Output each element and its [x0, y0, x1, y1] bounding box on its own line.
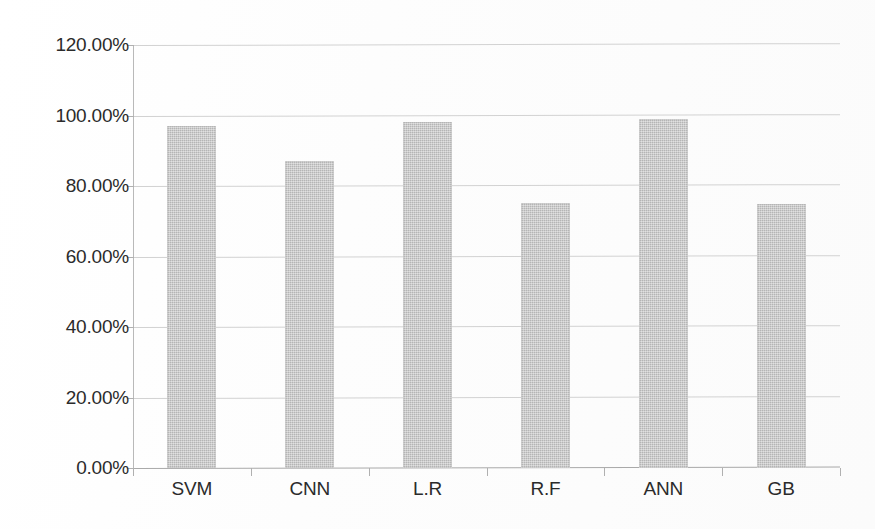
bar-svm[interactable] — [167, 126, 216, 468]
y-axis-tick-label: 40.00% — [66, 316, 129, 338]
x-axis-tick-label: ANN — [643, 478, 683, 500]
x-axis-tick — [251, 468, 252, 476]
y-axis-tick-label: 80.00% — [66, 175, 129, 197]
x-axis-tick — [722, 468, 723, 476]
gridline-y — [133, 114, 840, 117]
x-axis-tick — [840, 468, 841, 476]
x-axis-tick — [369, 468, 370, 476]
x-axis-tick-label: SVM — [172, 478, 213, 500]
x-axis-tick-label: CNN — [289, 478, 330, 500]
plot-area: 0.00%20.00%40.00%60.00%80.00%100.00%120.… — [0, 0, 875, 529]
gridline-y — [133, 184, 840, 187]
gridline-y — [133, 43, 840, 46]
gridline-y — [133, 325, 840, 328]
x-axis-tick — [604, 468, 605, 476]
y-axis-tick-label: 100.00% — [55, 105, 129, 127]
x-axis-tick-label: L.R — [413, 478, 442, 500]
bar-cnn[interactable] — [285, 161, 334, 468]
x-axis-tick — [133, 468, 134, 476]
bar-ann[interactable] — [639, 119, 688, 468]
y-axis-tick-label: 0.00% — [76, 457, 129, 479]
y-axis-tick-label: 20.00% — [66, 387, 129, 409]
gridline-y — [133, 396, 840, 399]
x-axis-tick-label: R.F — [530, 478, 560, 500]
y-axis-tick-label: 60.00% — [66, 246, 129, 268]
x-axis-tick-label: GB — [768, 478, 795, 500]
gridline-y — [133, 255, 840, 258]
x-axis-tick — [487, 468, 488, 476]
y-axis-tick-label: 120.00% — [55, 34, 129, 56]
bar-l-r[interactable] — [403, 122, 452, 468]
bar-chart: 0.00%20.00%40.00%60.00%80.00%100.00%120.… — [0, 0, 875, 529]
bar-gb[interactable] — [757, 204, 806, 468]
bar-r-f[interactable] — [521, 203, 570, 468]
